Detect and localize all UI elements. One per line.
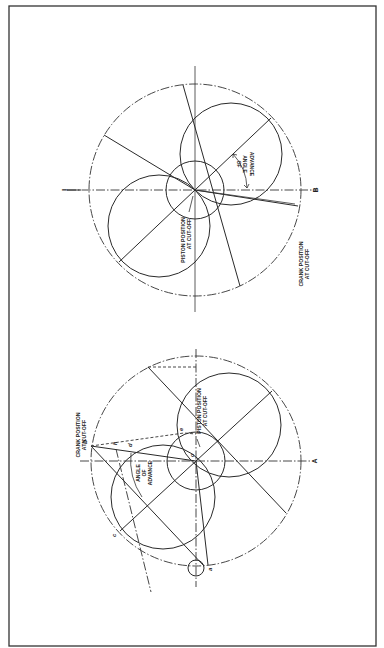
top-crank-label-line2: AT CUT-OFF	[304, 249, 310, 279]
bottom-crank-label-line2: AT CUT-OFF	[81, 420, 87, 450]
bottom-line-steep	[148, 367, 286, 513]
top-axis-label-B: B	[312, 187, 319, 192]
bottom-point-b: b	[81, 439, 88, 444]
bottom-angle-label-line3: ADVANCE	[147, 460, 153, 485]
top-crank-line-steep	[183, 85, 240, 286]
bottom-diagram: A CRANK POSITION AT CUT-OFF PISTON POSIT…	[75, 349, 318, 592]
top-angle-label-line2: OF	[236, 161, 242, 168]
top-diagram: I B PISTON POSITION AT CUT-OFF CRANK POS…	[60, 66, 319, 312]
bottom-piston-pointer	[197, 439, 200, 447]
bottom-point-a: a	[207, 567, 213, 571]
top-angle-label-line3: ADVANCE	[249, 152, 255, 177]
top-crank-cutoff-line-2	[195, 190, 295, 204]
valve-diagram-figure: I B PISTON POSITION AT CUT-OFF CRANK POS…	[0, 0, 384, 648]
top-piston-label-line2: AT CUT-OFF	[186, 219, 192, 249]
bottom-point-d: d	[127, 443, 133, 447]
bottom-axis-label-A: A	[311, 458, 318, 463]
bottom-point-c: c	[111, 533, 117, 537]
bottom-point-e: e	[178, 428, 184, 431]
bottom-line-o-a	[196, 461, 208, 565]
top-piston-pointer	[189, 196, 193, 212]
top-axis-label-I: I	[60, 189, 69, 191]
bottom-point-h: h	[112, 441, 118, 445]
bottom-piston-label-line2: AT CUT-OFF	[202, 396, 208, 426]
figure-border	[9, 6, 376, 646]
